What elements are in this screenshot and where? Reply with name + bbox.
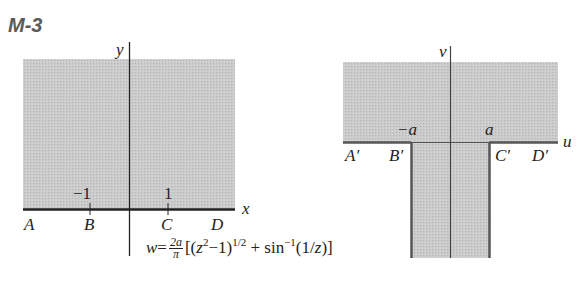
mapping-formula: w=2aπ[(z2−1)1/2 + sin−1(1/z)] — [146, 236, 333, 260]
formula-lhs: w — [146, 238, 157, 257]
formula-close: )] — [321, 238, 332, 257]
formula-inverse-exponent: −1 — [284, 236, 296, 248]
formula-minus-one: −1) — [208, 238, 232, 257]
tick-label-minus-one: −1 — [73, 184, 91, 204]
formula-fraction: 2aπ — [169, 237, 183, 260]
tick-label-minus-a: −a — [397, 120, 417, 140]
y-axis-label: y — [116, 40, 124, 60]
formula-arg-open: (1/ — [296, 238, 315, 257]
tick-label-a: a — [485, 120, 494, 140]
x-axis-label: x — [242, 199, 250, 219]
fraction-denominator: π — [169, 249, 183, 260]
formula-open-bracket: [( — [185, 238, 196, 257]
z-plane — [23, 42, 235, 256]
point-C: C — [161, 215, 172, 235]
formula-z: z — [196, 238, 203, 257]
tick-label-one: 1 — [164, 184, 173, 204]
point-D-prime: D′ — [532, 146, 548, 166]
formula-equals: = — [157, 238, 167, 257]
point-D: D — [211, 215, 223, 235]
point-A: A — [24, 215, 34, 235]
formula-plus-sin: + sin — [246, 238, 284, 257]
point-A-prime: A′ — [345, 146, 359, 166]
u-axis-label: u — [563, 132, 572, 152]
point-C-prime: C′ — [495, 146, 510, 166]
point-B-prime: B′ — [389, 146, 403, 166]
point-B: B — [84, 215, 94, 235]
formula-half-exponent: 1/2 — [232, 236, 246, 248]
v-axis-label: v — [439, 42, 447, 62]
w-plane — [343, 46, 558, 258]
